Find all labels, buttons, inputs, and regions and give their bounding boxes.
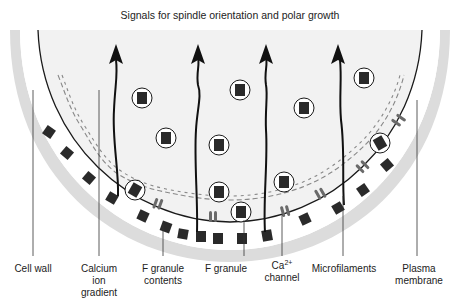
f-granule bbox=[156, 128, 176, 148]
f-granule bbox=[370, 133, 390, 153]
label-microfilaments: Microfilaments bbox=[308, 263, 380, 275]
f-granule bbox=[209, 135, 229, 155]
label-f-granule: F granule bbox=[196, 263, 256, 275]
label-ca-channel: Ca2+ channel bbox=[257, 260, 307, 284]
f-granule bbox=[132, 88, 152, 108]
label-plasma-membrane: Plasma membrane bbox=[391, 263, 447, 287]
label-f-granule-contents: F granule contents bbox=[133, 263, 193, 287]
label-cell-wall: Cell wall bbox=[8, 263, 58, 275]
f-granule bbox=[274, 172, 294, 192]
diagram-canvas: Signals for spindle orientation and pola… bbox=[0, 0, 460, 302]
f-granule bbox=[209, 182, 229, 202]
f-granule bbox=[354, 68, 374, 88]
label-calcium-ion-gradient: Calcium ion gradient bbox=[74, 263, 124, 299]
f-granule bbox=[231, 202, 251, 222]
f-granule bbox=[230, 80, 250, 100]
f-granule bbox=[125, 180, 145, 200]
diagram-title: Signals for spindle orientation and pola… bbox=[0, 9, 460, 21]
f-granule bbox=[294, 98, 314, 118]
